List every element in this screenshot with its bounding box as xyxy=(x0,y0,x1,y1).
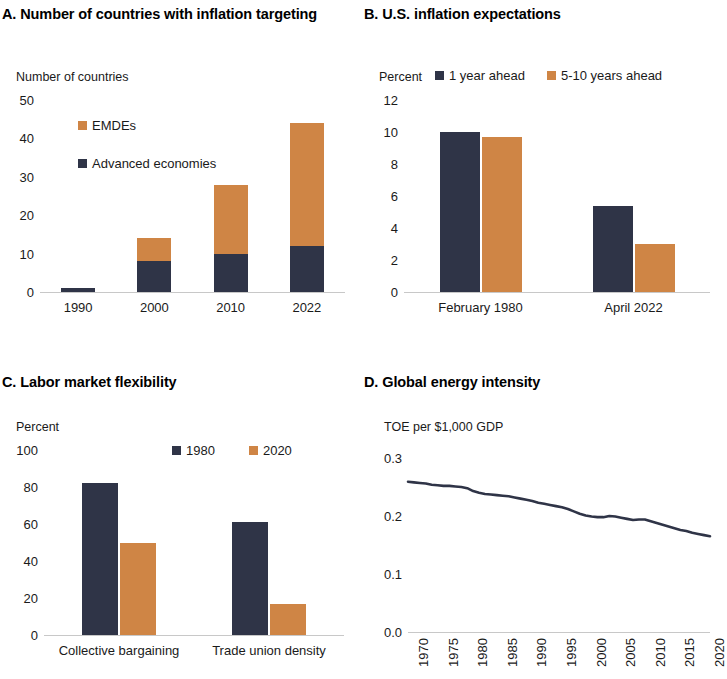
panel-c-axis-unit: Percent xyxy=(16,420,59,434)
panel-a-legend-emdes: EMDEs xyxy=(78,118,136,133)
y-axis-tick: 6 xyxy=(391,189,398,204)
bar-segment-advanced-economies xyxy=(137,261,171,292)
line-series-global-energy-intensity xyxy=(408,482,710,537)
panel-b-legend: 1 year ahead 5-10 years ahead xyxy=(435,68,662,83)
bar-1-0 xyxy=(593,206,633,292)
panel-c-legend-item-2020: 2020 xyxy=(249,443,292,458)
x-axis-tick: 2000 xyxy=(140,300,169,315)
y-axis-tick: 0.2 xyxy=(384,509,402,524)
x-axis-tick: 2022 xyxy=(292,300,321,315)
panel-d-title: D. Global energy intensity xyxy=(364,368,712,391)
bar-segment-emdes xyxy=(137,238,171,261)
y-axis-tick: 30 xyxy=(20,169,34,184)
bar-0-1 xyxy=(482,137,522,292)
bar-segment-advanced-economies xyxy=(214,254,248,292)
panel-c-legend-item-1980: 1980 xyxy=(172,443,215,458)
bar-1-0 xyxy=(232,522,268,635)
x-axis-tick: 1990 xyxy=(64,300,93,315)
x-axis-tick: 1970 xyxy=(416,638,431,667)
y-axis-tick: 8 xyxy=(391,157,398,172)
panel-c-baseline xyxy=(44,635,344,636)
x-axis-tick: 2010 xyxy=(216,300,245,315)
panel-b-baseline xyxy=(404,292,710,293)
bar-2 xyxy=(214,100,248,292)
y-axis-tick: 40 xyxy=(20,131,34,146)
y-axis-tick: 100 xyxy=(16,443,38,458)
x-axis-tick: Collective bargaining xyxy=(59,643,180,658)
bar-1-1 xyxy=(270,604,306,635)
legend-swatch-1-year-ahead xyxy=(435,71,444,80)
y-axis-tick: 0 xyxy=(31,628,38,643)
panel-a: A. Number of countries with inflation ta… xyxy=(0,0,350,330)
bar-segment-emdes xyxy=(290,123,324,246)
legend-label-emdes: EMDEs xyxy=(92,118,136,133)
panel-b: B. U.S. inflation expectations Percent 0… xyxy=(362,0,712,330)
bar-1-1 xyxy=(635,244,675,292)
y-axis-tick: 0.0 xyxy=(384,625,402,640)
y-axis-tick: 10 xyxy=(384,125,398,140)
panel-d-plot: 0.00.10.20.31970197519801985199019952000… xyxy=(408,458,710,632)
legend-swatch-emdes xyxy=(78,121,87,130)
x-axis-tick: February 1980 xyxy=(438,300,523,315)
panel-a-baseline xyxy=(40,292,345,293)
y-axis-tick: 20 xyxy=(24,591,38,606)
legend-swatch-2020 xyxy=(249,446,258,455)
legend-label-advanced: Advanced economies xyxy=(92,156,216,171)
y-axis-tick: 2 xyxy=(391,253,398,268)
panel-b-legend-item-1yr: 1 year ahead xyxy=(435,68,525,83)
panel-b-legend-item-5-10yr: 5-10 years ahead xyxy=(547,68,662,83)
x-axis-tick: 2005 xyxy=(623,638,638,667)
y-axis-tick: 20 xyxy=(20,208,34,223)
x-axis-tick: 1995 xyxy=(564,638,579,667)
y-axis-tick: 0 xyxy=(391,285,398,300)
panel-c-legend: 1980 2020 xyxy=(172,443,292,458)
x-axis-tick: 1975 xyxy=(445,638,460,667)
y-axis-tick: 0 xyxy=(27,285,34,300)
legend-label-1-year-ahead: 1 year ahead xyxy=(449,68,525,83)
y-axis-tick: 4 xyxy=(391,221,398,236)
legend-label-5-10-years-ahead: 5-10 years ahead xyxy=(561,68,662,83)
x-axis-tick: 1990 xyxy=(534,638,549,667)
y-axis-tick: 80 xyxy=(24,480,38,495)
panel-b-title: B. U.S. inflation expectations xyxy=(364,0,712,23)
panel-d-baseline xyxy=(408,632,710,633)
bar-1 xyxy=(137,100,171,292)
x-axis-tick: 2020 xyxy=(712,638,727,667)
bar-segment-emdes xyxy=(214,185,248,254)
bar-0-0 xyxy=(440,132,480,292)
energy-intensity-line xyxy=(408,458,710,632)
y-axis-tick: 40 xyxy=(24,554,38,569)
panel-c-plot: 020406080100Collective bargainingTrade u… xyxy=(44,450,344,635)
panel-c: C. Labor market flexibility Percent 0204… xyxy=(0,368,350,679)
panel-b-plot: 024681012February 1980April 2022 xyxy=(404,100,710,292)
y-axis-tick: 10 xyxy=(20,246,34,261)
bar-segment-advanced-economies xyxy=(290,246,324,292)
y-axis-tick: 12 xyxy=(384,93,398,108)
bar-segment-advanced-economies xyxy=(61,288,95,292)
x-axis-tick: Trade union density xyxy=(212,643,326,658)
y-axis-tick: 0.1 xyxy=(384,567,402,582)
legend-label-2020: 2020 xyxy=(263,443,292,458)
panel-a-legend-advanced: Advanced economies xyxy=(78,156,216,171)
x-axis-tick: 1985 xyxy=(504,638,519,667)
x-axis-tick: 2015 xyxy=(682,638,697,667)
y-axis-tick: 0.3 xyxy=(384,451,402,466)
legend-swatch-5-10-years-ahead xyxy=(547,71,556,80)
bar-3 xyxy=(290,100,324,292)
panel-d: D. Global energy intensity TOE per $1,00… xyxy=(362,368,712,679)
x-axis-tick: 2010 xyxy=(652,638,667,667)
x-axis-tick: 1980 xyxy=(475,638,490,667)
y-axis-tick: 50 xyxy=(20,93,34,108)
legend-label-1980: 1980 xyxy=(186,443,215,458)
bar-0-1 xyxy=(120,543,156,636)
panel-d-axis-unit: TOE per $1,000 GDP xyxy=(384,420,503,434)
panel-a-axis-unit: Number of countries xyxy=(16,70,129,84)
x-axis-tick: 2000 xyxy=(593,638,608,667)
panel-a-title: A. Number of countries with inflation ta… xyxy=(2,0,350,23)
y-axis-tick: 60 xyxy=(24,517,38,532)
legend-swatch-1980 xyxy=(172,446,181,455)
bar-0-0 xyxy=(82,483,118,635)
legend-swatch-advanced xyxy=(78,159,87,168)
x-axis-tick: April 2022 xyxy=(604,300,663,315)
